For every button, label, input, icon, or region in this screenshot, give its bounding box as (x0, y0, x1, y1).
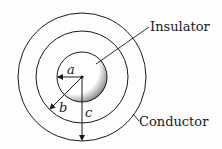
insulator-label: Insulator (150, 19, 211, 34)
insulator-leader (96, 27, 149, 64)
label-b: b (59, 100, 67, 115)
label-a: a (67, 62, 75, 77)
conductor-label: Conductor (139, 114, 209, 129)
label-c: c (85, 105, 93, 120)
diagram-canvas: a b c Insulator Conductor (0, 0, 222, 149)
coax-diagram: a b c Insulator Conductor (0, 0, 222, 149)
